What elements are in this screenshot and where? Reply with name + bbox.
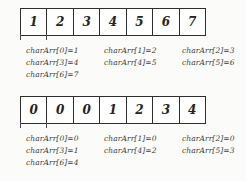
annotation-row: charArr[3]=1 charArr[4]=2 charArr[5]=3 <box>26 144 240 156</box>
annotation-row: charArr[3]=4 charArr[4]=5 charArr[5]=6 <box>26 56 240 68</box>
annotation-row: charArr[0]=0 charArr[1]=0 charArr[2]=0 <box>26 132 240 144</box>
array-cell: 0 <box>47 97 73 123</box>
array-cell: 7 <box>180 9 205 35</box>
annotation-item: charArr[6]=4 <box>26 158 104 167</box>
array-cell: 4 <box>100 9 126 35</box>
annotation-item: charArr[4]=5 <box>104 58 182 67</box>
annotation-item: charArr[6]=7 <box>26 70 104 79</box>
annotation-grid: charArr[0]=1 charArr[1]=2 charArr[2]=3 c… <box>26 44 240 80</box>
array-cell: 4 <box>180 97 205 123</box>
annotation-item: charArr[0]=0 <box>26 134 104 143</box>
array-cell: 5 <box>127 9 153 35</box>
annotation-item: charArr[3]=4 <box>26 58 104 67</box>
annotation-row: charArr[6]=4 <box>26 156 240 168</box>
tick-mark-left <box>20 34 21 40</box>
array-cell: 1 <box>21 9 47 35</box>
array-cell: 2 <box>47 9 73 35</box>
annotation-item: charArr[2]=0 <box>182 134 240 143</box>
array-cell: 3 <box>153 97 179 123</box>
annotation-grid: charArr[0]=0 charArr[1]=0 charArr[2]=0 c… <box>26 132 240 168</box>
annotation-item: charArr[5]=6 <box>182 58 240 67</box>
annotation-item: charArr[1]=2 <box>104 46 182 55</box>
array-table: 0 0 0 1 2 3 4 <box>20 96 206 124</box>
array-cell: 1 <box>100 97 126 123</box>
tick-mark-second <box>46 122 47 128</box>
array-cell: 3 <box>74 9 100 35</box>
annotation-item: charArr[5]=3 <box>182 146 240 155</box>
diagram-page: 1 2 3 4 5 6 7 charArr[0]=1 charArr[1]=2 … <box>0 0 246 181</box>
annotation-row: charArr[0]=1 charArr[1]=2 charArr[2]=3 <box>26 44 240 56</box>
array-cell: 0 <box>21 97 47 123</box>
array-cell: 0 <box>74 97 100 123</box>
array-table: 1 2 3 4 5 6 7 <box>20 8 206 36</box>
array-cell: 2 <box>127 97 153 123</box>
annotation-row: charArr[6]=7 <box>26 68 240 80</box>
annotation-item: charArr[2]=3 <box>182 46 240 55</box>
annotation-item: charArr[1]=0 <box>104 134 182 143</box>
annotation-item: charArr[0]=1 <box>26 46 104 55</box>
tick-mark-left <box>20 122 21 128</box>
tick-mark-second <box>46 34 47 40</box>
annotation-item: charArr[4]=2 <box>104 146 182 155</box>
annotation-item: charArr[3]=1 <box>26 146 104 155</box>
array-cell: 6 <box>153 9 179 35</box>
